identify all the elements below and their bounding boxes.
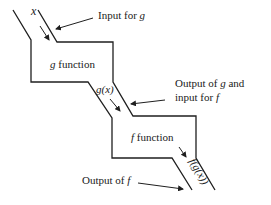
composition-diagram: x Input for g g function g(x) Output of … <box>0 0 271 205</box>
input-x-label: x <box>30 4 37 18</box>
middle-flow-arrow <box>110 99 120 111</box>
middle-pointer-arrow <box>131 100 165 104</box>
input-flow-arrow <box>40 26 49 40</box>
f-of-g-of-x-label: f(g(x)) <box>186 156 211 187</box>
input-for-g-label: Input for g <box>98 9 146 21</box>
output-of-f-label: Output of f <box>82 174 132 186</box>
g-function-label: g function <box>50 58 95 70</box>
output-pointer-arrow <box>138 183 183 189</box>
input-pointer-arrow <box>56 18 93 29</box>
output-of-g-label: Output of g and <box>175 77 245 89</box>
g-of-x-label: g(x) <box>96 83 114 96</box>
f-function-label: f function <box>131 131 174 143</box>
input-for-f-label: input for f <box>175 91 221 103</box>
output-flow-arrow <box>179 147 186 157</box>
